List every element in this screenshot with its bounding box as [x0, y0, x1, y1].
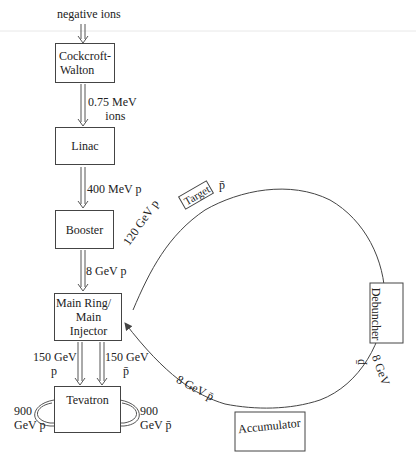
label-075-mev: 0.75 MeV ions	[88, 95, 137, 123]
label-900-gev-p: 900 GeV p	[14, 404, 45, 432]
label-400-mev: 400 MeV p	[87, 182, 141, 196]
antiproton-ring	[125, 189, 385, 408]
linac-box: Linac	[55, 127, 115, 165]
main-ring-box: Main Ring/ Main Injector	[54, 293, 122, 341]
debuncher-label: Debuncher	[369, 288, 383, 341]
accelerator-diagram: negative ions Cockcroft- Walton Linac Bo…	[0, 0, 416, 460]
cockcroft-line1: Cockcroft-	[59, 49, 111, 63]
label-150-gev-p: 150 GeV p	[33, 350, 75, 378]
cockcroft-walton-box: Cockcroft- Walton	[55, 43, 115, 83]
tevatron-box: Tevatron	[54, 386, 121, 433]
booster-box: Booster	[55, 210, 114, 249]
label-target-pbar: p̄	[219, 178, 225, 192]
main-ring-line1: Main Ring/	[56, 296, 111, 310]
main-ring-line2: Main Injector	[56, 310, 121, 338]
label-8-gev-p: 8 GeV p	[86, 264, 126, 278]
label-900-gev-pbar: 900 GeV p̄	[140, 404, 171, 432]
label-150-gev-pbar: 150 GeV p̄	[105, 350, 147, 378]
negative-ions-label: negative ions	[57, 7, 121, 21]
cockcroft-line2: Walton	[60, 63, 94, 77]
label-debuncher-pbar: p̄	[353, 359, 367, 365]
